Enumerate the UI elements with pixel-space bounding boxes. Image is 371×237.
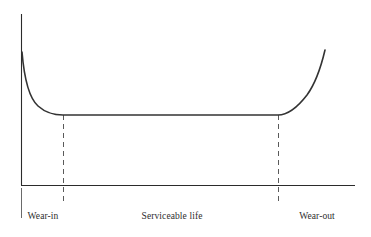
- bathtub-curve-figure: Wear-in Serviceable life Wear-out: [0, 0, 371, 237]
- chart-canvas: [0, 0, 371, 237]
- region-label-serviceable-life: Serviceable life: [126, 211, 218, 222]
- region-label-wear-in: Wear-in: [22, 211, 64, 222]
- failure-rate-curve: [22, 50, 325, 115]
- region-label-wear-out: Wear-out: [292, 211, 342, 222]
